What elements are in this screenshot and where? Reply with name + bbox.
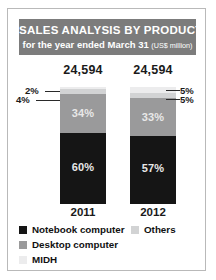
legend-column-right: Others (131, 222, 176, 237)
stacked-bar-2012: 33% 57% (130, 87, 176, 201)
bar-segment-notebook-2012: 57% (130, 136, 176, 201)
legend-item-others: Others (131, 222, 176, 237)
legend-label-notebook-computer: Notebook computer (32, 225, 125, 235)
chart-subtitle-text: for the year ended March 31 (23, 39, 149, 50)
chart-subtitle: for the year ended March 31 (US$ million… (19, 39, 196, 51)
chart-header-banner: SALES ANALYSIS BY PRODUCT for the year e… (19, 19, 196, 55)
bar-segment-notebook-label-2011: 60% (72, 161, 95, 173)
bar-total-2011: 24,594 (48, 63, 118, 77)
bar-segment-notebook-2011: 60% (60, 133, 106, 201)
legend-item-midh: MIDH (19, 252, 125, 267)
plot-area: 24,594 34% 60% 2011 24,594 33% 57% 2012 … (8, 61, 205, 216)
axis-baseline-2012 (130, 201, 176, 204)
legend-label-others: Others (144, 225, 176, 235)
x-tick-label-2011: 2011 (48, 206, 118, 218)
callout-leader-line-others-2011 (36, 100, 60, 101)
bar-segment-desktop-2011: 34% (60, 94, 106, 133)
chart-card: SALES ANALYSIS BY PRODUCT for the year e… (7, 8, 206, 271)
chart-title: SALES ANALYSIS BY PRODUCT (19, 24, 196, 37)
legend-swatch-others (131, 226, 139, 234)
legend-column-left: Notebook computer Desktop computer MIDH (19, 222, 125, 267)
callout-leader-line-others-2012 (166, 99, 180, 100)
x-tick-label-2012: 2012 (118, 206, 188, 218)
legend-swatch-notebook-computer (19, 226, 27, 234)
axis-baseline-2011 (60, 201, 106, 204)
callout-others-2012: 5% (180, 94, 194, 105)
callout-others-2011: 4% (16, 94, 30, 105)
bar-segment-desktop-label-2012: 33% (142, 111, 165, 123)
legend-item-desktop-computer: Desktop computer (19, 237, 125, 252)
bar-segment-desktop-label-2011: 34% (72, 107, 95, 119)
legend-label-midh: MIDH (32, 255, 57, 265)
legend-swatch-midh (19, 256, 27, 264)
chart-legend: Notebook computer Desktop computer MIDH … (19, 222, 196, 266)
stacked-bar-2011: 34% 60% (60, 87, 106, 201)
bar-total-2012: 24,594 (118, 63, 188, 77)
bar-group-2011: 24,594 34% 60% 2011 (60, 61, 106, 216)
callout-leader-line-midh-2012 (166, 90, 180, 91)
callout-leader-line-midh-2011 (45, 91, 60, 92)
chart-unit-label: (US$ million) (151, 41, 192, 50)
legend-label-desktop-computer: Desktop computer (32, 240, 118, 250)
legend-swatch-desktop-computer (19, 241, 27, 249)
bar-segment-desktop-2012: 33% (130, 98, 176, 136)
bar-segment-notebook-label-2012: 57% (142, 162, 165, 174)
legend-item-notebook-computer: Notebook computer (19, 222, 125, 237)
bar-group-2012: 24,594 33% 57% 2012 (130, 61, 176, 216)
